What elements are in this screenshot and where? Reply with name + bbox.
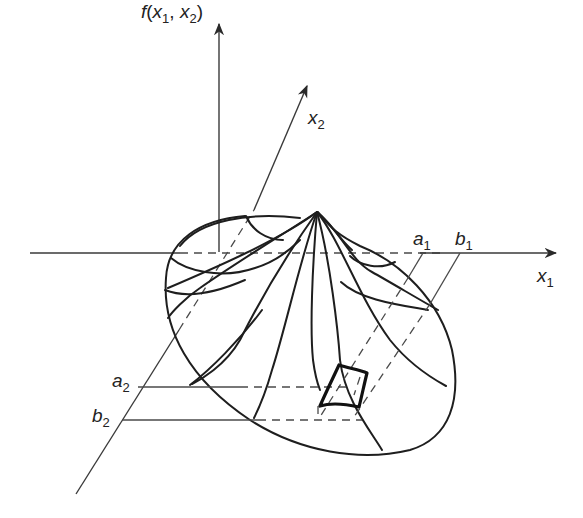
b1-label: b1 <box>455 228 473 253</box>
surface-outline <box>166 212 456 455</box>
surface-back-rim <box>180 216 300 246</box>
x1-axis-label: x1 <box>536 265 554 290</box>
patch-drop-right <box>354 377 360 395</box>
a1-projection <box>318 253 423 420</box>
a1-label: a1 <box>413 228 431 253</box>
a2-label: a2 <box>112 370 130 395</box>
b2-label: b2 <box>92 405 110 430</box>
x2-axis-label: x2 <box>307 107 325 132</box>
surface-patch <box>320 365 367 407</box>
f-axis-label: f(x1, x2) <box>141 1 203 26</box>
b1-projection <box>352 253 460 420</box>
surface-meridians <box>168 212 446 450</box>
density-surface-diagram: f(x1, x2) x2 x1 a1 b1 a2 b2 <box>0 0 583 518</box>
